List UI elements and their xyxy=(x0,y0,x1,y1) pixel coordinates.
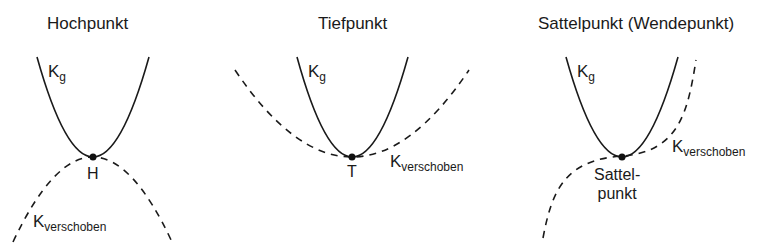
point-label-t: T xyxy=(347,164,357,180)
kg-label-sattelpunkt: Kg xyxy=(577,63,595,83)
kverschoben-curve-tiefpunkt xyxy=(235,70,469,157)
point-label-sattelpunkt: Sattel-punkt xyxy=(594,165,640,203)
kverschoben-label-sattelpunkt: Kverschoben xyxy=(672,138,745,158)
kverschoben-label-tiefpunkt: Kverschoben xyxy=(390,153,463,173)
panel-title-hochpunkt: Hochpunkt xyxy=(47,15,128,32)
diagram-canvas xyxy=(0,0,778,252)
sattelpunkt-dot xyxy=(619,154,626,161)
hochpunkt-dot xyxy=(90,154,97,161)
panel-title-tiefpunkt: Tiefpunkt xyxy=(318,15,387,32)
point-label-h: H xyxy=(87,166,99,182)
kg-label-hochpunkt: Kg xyxy=(48,63,66,83)
kg-label-tiefpunkt: Kg xyxy=(308,63,326,83)
tiefpunkt-dot xyxy=(349,154,356,161)
panel-title-sattelpunkt: Sattelpunkt (Wendepunkt) xyxy=(538,15,734,32)
kverschoben-label-hochpunkt: Kverschoben xyxy=(33,213,106,233)
